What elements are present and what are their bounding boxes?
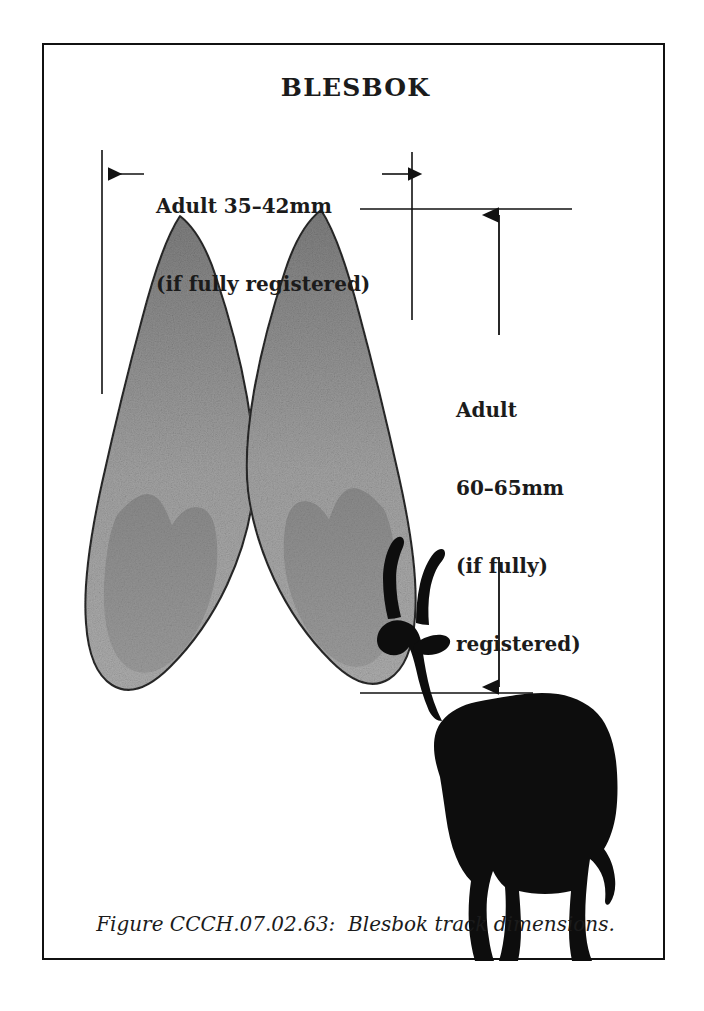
figure-caption: Figure CCCH.07.02.63: Blesbok track dime… <box>44 912 667 936</box>
figure-plate: BLESBOK <box>42 43 665 960</box>
height-dimension-line4: registered) <box>456 631 616 657</box>
width-dimension-label: Adult 35–42mm (if fully registered) <box>156 141 406 349</box>
height-dimension-line3: (if fully) <box>456 553 616 579</box>
width-dimension-line1: Adult 35–42mm <box>156 193 406 219</box>
height-dimension-line1: Adult <box>456 397 616 423</box>
height-dimension-label: Adult 60–65mm (if fully) registered) <box>456 345 616 709</box>
width-dimension-line2: (if fully registered) <box>156 271 406 297</box>
height-dimension-line2: 60–65mm <box>456 475 616 501</box>
